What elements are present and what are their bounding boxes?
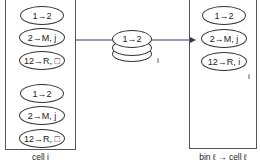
right-ellipse-2: 2→M, j	[201, 29, 247, 48]
left-ellipse-2-1: 1→2	[20, 84, 64, 103]
right-ellipse-3: 12→R, i	[201, 52, 247, 71]
right-ellipse-1: 1→2	[202, 6, 246, 25]
ellipse-text: 1→2	[32, 89, 51, 99]
message-text: 1→2	[122, 34, 141, 44]
ellipse-text: 12→R, i	[208, 57, 241, 67]
right-index-label: i	[248, 72, 250, 81]
ellipse-text: 2→M, j	[28, 111, 57, 121]
left-ellipse-1-2: 2→M, j	[19, 28, 65, 47]
left-ellipse-2-3: 12→R, □	[19, 129, 65, 148]
ellipse-text: 1→2	[32, 11, 51, 21]
message-index-label: i	[157, 56, 159, 65]
message-stack-top: 1→2	[112, 30, 152, 48]
ellipse-text: 12→R, □	[24, 56, 60, 66]
ellipse-text: 1→2	[214, 11, 233, 21]
left-cell-label: cell i	[5, 152, 76, 162]
right-cell-label: bin ℓ → cell ℓ	[184, 152, 260, 162]
left-ellipse-2-2: 2→M, j	[19, 106, 65, 125]
left-ellipse-1-3: 12→R, □	[19, 51, 65, 70]
ellipse-text: 12→R, □	[24, 134, 60, 144]
ellipse-text: 2→M, j	[28, 33, 57, 43]
left-ellipse-1-1: 1→2	[20, 6, 64, 25]
ellipse-text: 2→M, j	[210, 34, 239, 44]
